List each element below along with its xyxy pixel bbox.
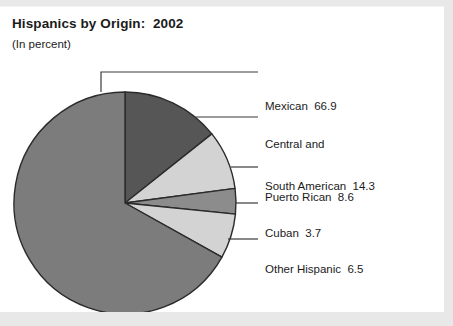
frame-right-edge: [444, 0, 453, 326]
frame-bottom-edge: [0, 312, 453, 326]
pie-graphic: [0, 7, 444, 312]
pie-chart-figure: Hispanics by Origin: 2002 (In percent) M…: [0, 0, 453, 326]
chart-canvas: Hispanics by Origin: 2002 (In percent) M…: [0, 7, 444, 312]
pie-slices-group: [14, 92, 236, 312]
leader-line-mexican: [101, 72, 258, 92]
callout-label-central-south-american-line1: Central and: [265, 137, 375, 151]
callout-label-other-hispanic-text: Other Hispanic 6.5: [265, 262, 363, 276]
callout-label-other-hispanic: Other Hispanic 6.5: [265, 234, 363, 304]
